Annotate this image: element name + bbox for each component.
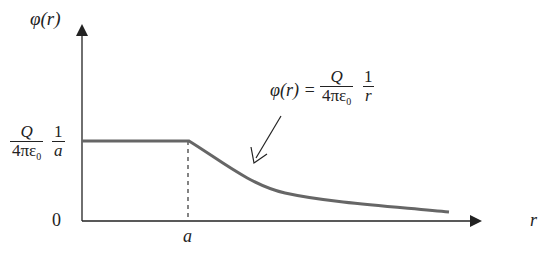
origin-label: 0 [52, 210, 61, 231]
annotation-arrowhead-icon [251, 147, 267, 163]
potential-curve [82, 141, 449, 212]
annotation-arrow [256, 116, 281, 158]
annotation-fraction-1: Q 4πε0 [320, 68, 353, 111]
y-axis-label: φ(r) [30, 8, 61, 30]
annotation-lhs: φ(r) = [270, 80, 316, 101]
annotation-fraction-2: 1 r [362, 68, 375, 105]
chart-canvas [0, 0, 549, 275]
y-level-fraction-2: 1 a [52, 123, 65, 160]
y-level-fraction-1: Q 4πε0 [10, 123, 43, 166]
x-axis-arrow-icon [470, 215, 482, 227]
y-axis-arrow-icon [76, 24, 88, 36]
x-axis-label: r [530, 210, 537, 231]
a-tick-label: a [183, 226, 192, 247]
